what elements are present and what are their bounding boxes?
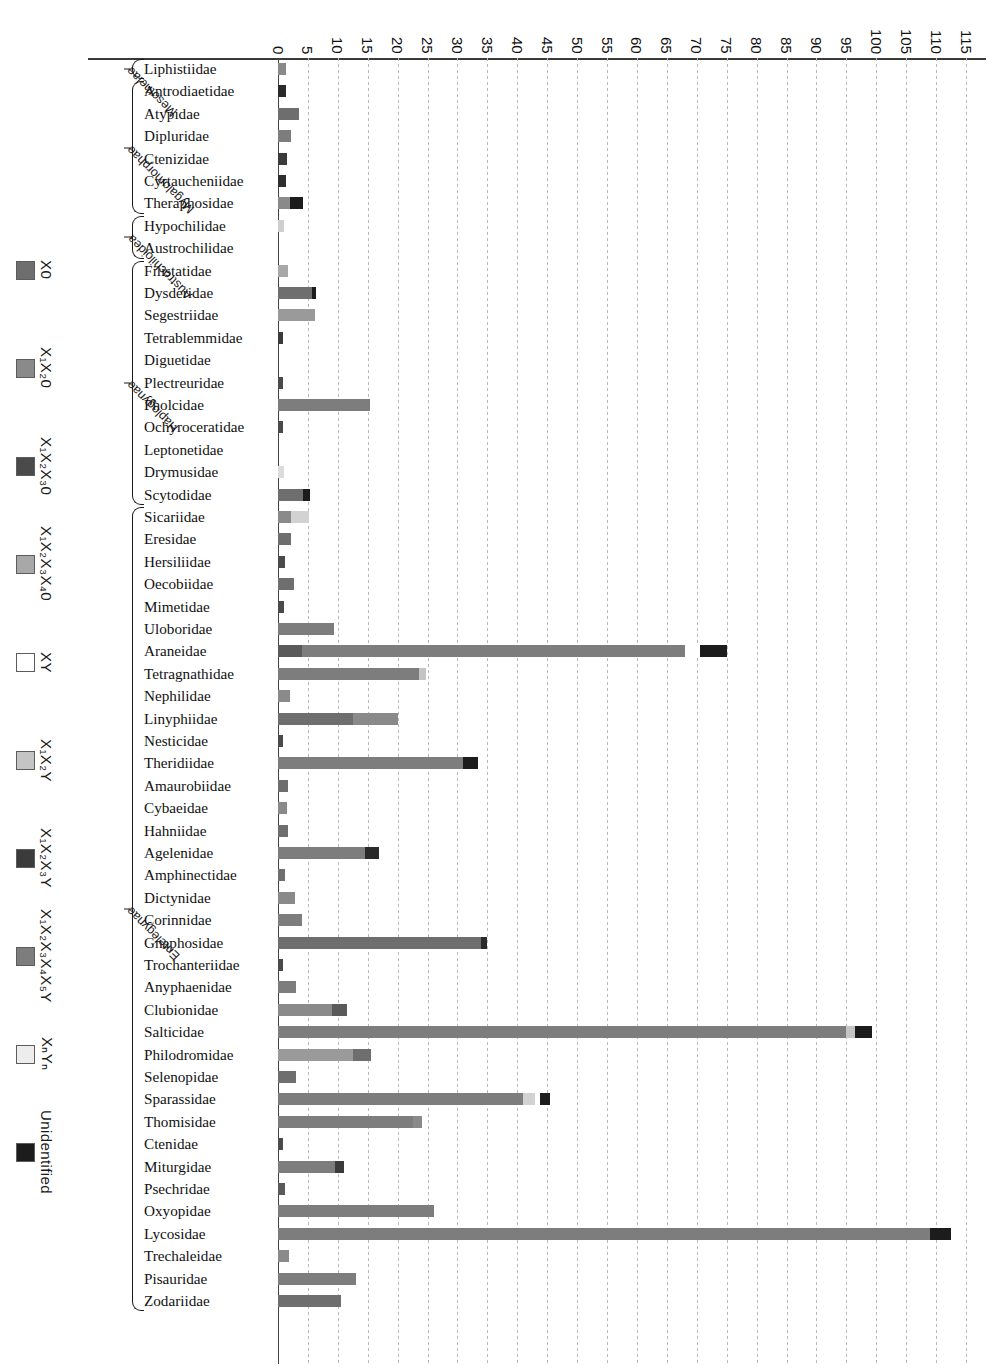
x-tick-label-65: 65 [658, 37, 675, 54]
bar-row [272, 1200, 986, 1222]
legend-label: X₁X₂0 [38, 347, 55, 388]
bar-segment [291, 511, 309, 523]
legend-item[interactable]: XₙYₙ [6, 1006, 84, 1102]
family-label: Zodariidae [144, 1290, 268, 1312]
bar-segment [278, 1004, 332, 1016]
x-tick-label-55: 55 [599, 37, 616, 54]
legend-item[interactable]: X₁X₂Y [6, 712, 84, 808]
bar-segment [846, 1026, 855, 1038]
bar-row [272, 148, 986, 170]
bar-row [272, 327, 986, 349]
bar-row [272, 282, 986, 304]
x-tick-label-115: 115 [958, 30, 975, 54]
bar-segment [278, 937, 481, 949]
legend-swatch [16, 359, 35, 378]
bar-row [272, 887, 986, 909]
bar-row [272, 1156, 986, 1178]
family-label: Pisauridae [144, 1268, 268, 1290]
bar-row [272, 372, 986, 394]
x-tick-label-0: 0 [270, 46, 287, 54]
legend-label: X₁X₂Y [38, 739, 55, 782]
family-label: Araneidae [144, 640, 268, 662]
family-label: Selenopidae [144, 1066, 268, 1088]
legend-label: XY [38, 652, 55, 673]
x-tick-label-20: 20 [389, 37, 406, 54]
plot-area: MesothelaeMygalomorphaeAustrochiloideaHa… [88, 58, 986, 1364]
legend-label: X₁X₂X₃0 [38, 437, 55, 495]
family-label: Drymusidae [144, 461, 268, 483]
family-label: Pholcidae [144, 394, 268, 416]
bar-segment [278, 153, 287, 165]
bar-segment [278, 1071, 296, 1083]
x-tick-label-80: 80 [748, 37, 765, 54]
family-label: Clubionidae [144, 999, 268, 1021]
legend-item[interactable]: X₁X₂0 [6, 320, 84, 416]
family-label: Gnaphosidae [144, 932, 268, 954]
bar-row [272, 484, 986, 506]
bar-row [272, 349, 986, 371]
legend-swatch [16, 555, 35, 574]
family-label: Theraphosidae [144, 192, 268, 214]
x-tick-label-75: 75 [718, 37, 735, 54]
legend-item[interactable]: X₁X₂X₃X₄X₅Y [6, 908, 84, 1004]
family-label: Leptonetidae [144, 439, 268, 461]
bar-segment [335, 1161, 344, 1173]
legend-label: X0 [38, 260, 55, 279]
x-tick-label-30: 30 [449, 37, 466, 54]
bar-row [272, 1066, 986, 1088]
bar-row [272, 976, 986, 998]
legend-swatch [16, 751, 35, 770]
bar-segment [540, 1093, 550, 1105]
bar-segment [278, 108, 299, 120]
family-label: Sicariidae [144, 506, 268, 528]
legend-item[interactable]: X₁X₂X₃X₄0 [6, 516, 84, 612]
family-label: Nesticidae [144, 730, 268, 752]
x-tick-label-100: 100 [868, 29, 885, 54]
x-tick-label-45: 45 [539, 37, 556, 54]
bar-row [272, 640, 986, 662]
family-label: Segestriidae [144, 304, 268, 326]
family-label: Linyphiidae [144, 708, 268, 730]
bar-row [272, 416, 986, 438]
bar-segment [278, 377, 283, 389]
bar-row [272, 80, 986, 102]
bar-row [272, 752, 986, 774]
bar-segment [312, 287, 316, 299]
bar-row [272, 506, 986, 528]
legend-item[interactable]: X0 [6, 222, 84, 318]
legend-swatch [16, 947, 35, 966]
family-label: Scytodidae [144, 484, 268, 506]
bar-segment [278, 421, 283, 433]
legend-swatch [16, 261, 35, 280]
bar-segment [278, 623, 334, 635]
bar-segment [278, 1250, 289, 1262]
family-label: Hypochilidae [144, 215, 268, 237]
legend-swatch [16, 653, 35, 672]
family-label: Agelenidae [144, 842, 268, 864]
legend-item[interactable]: XY [6, 614, 84, 710]
legend-item[interactable]: X₁X₂X₃Y [6, 810, 84, 906]
bar-segment [855, 1026, 872, 1038]
bar-segment [353, 1049, 371, 1061]
bar-segment [278, 1161, 335, 1173]
bar-row [272, 260, 986, 282]
family-label: Eresidae [144, 528, 268, 550]
family-label-column: LiphistiidaeAntrodiaetidaeAtypidaeDiplur… [144, 58, 268, 1364]
bar-segment [278, 1273, 356, 1285]
bar-segment [278, 713, 353, 725]
bar-segment [278, 892, 295, 904]
family-label: Dictynidae [144, 887, 268, 909]
group-brace: Mesothelae [88, 59, 144, 79]
bar-segment [278, 466, 284, 478]
bar-segment [278, 1049, 353, 1061]
family-label: Austrochilidae [144, 237, 268, 259]
legend-item[interactable]: Unidentified [6, 1104, 84, 1200]
bar-segment [278, 533, 291, 545]
family-label: Mimetidae [144, 596, 268, 618]
bar-row [272, 1021, 986, 1043]
legend-item[interactable]: X₁X₂X₃0 [6, 418, 84, 514]
bar-row [272, 192, 986, 214]
bar-segment [278, 197, 290, 209]
bar-segment [278, 780, 288, 792]
family-label: Lycosidae [144, 1223, 268, 1245]
